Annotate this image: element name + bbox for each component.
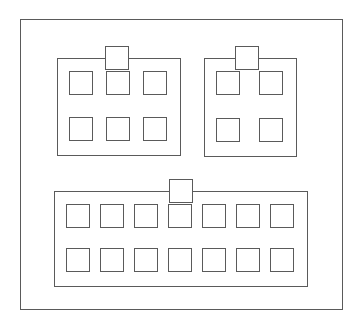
unit-cell (236, 248, 260, 272)
group-tab-top-left (105, 46, 129, 70)
unit-cell (270, 204, 294, 228)
unit-cell (202, 248, 226, 272)
unit-cell (259, 71, 283, 95)
unit-cell (134, 204, 158, 228)
unit-cell (216, 118, 240, 142)
unit-cell (100, 204, 124, 228)
unit-cell (106, 117, 130, 141)
unit-cell (270, 248, 294, 272)
unit-cell (66, 248, 90, 272)
diagram-canvas (0, 0, 359, 331)
unit-cell (69, 71, 93, 95)
unit-grid-bottom (66, 204, 294, 272)
unit-cell (100, 248, 124, 272)
unit-cell (216, 71, 240, 95)
unit-cell (202, 204, 226, 228)
unit-cell (66, 204, 90, 228)
unit-grid-top-right (216, 71, 283, 142)
unit-cell (236, 204, 260, 228)
unit-cell (143, 117, 167, 141)
group-tab-bottom (169, 179, 193, 203)
outer-frame (20, 19, 343, 310)
unit-cell (134, 248, 158, 272)
unit-cell (168, 204, 192, 228)
group-tab-top-right (235, 46, 259, 70)
unit-cell (168, 248, 192, 272)
caption (80, 316, 230, 326)
unit-cell (259, 118, 283, 142)
unit-cell (69, 117, 93, 141)
unit-cell (143, 71, 167, 95)
unit-cell (106, 71, 130, 95)
unit-grid-top-left (69, 71, 167, 141)
